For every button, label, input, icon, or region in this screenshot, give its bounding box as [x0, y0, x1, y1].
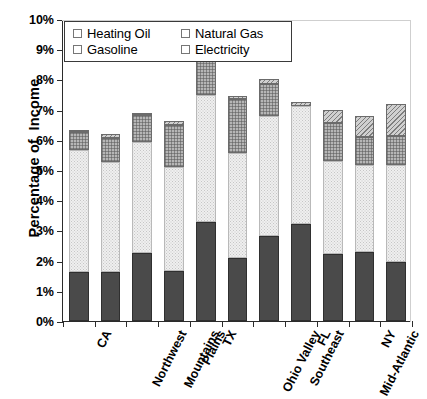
bar-column[interactable] — [355, 19, 375, 321]
bar-segment-electricity[interactable] — [291, 224, 311, 321]
bar-segment-electricity[interactable] — [259, 236, 279, 321]
legend-swatch-natural-gas-icon — [181, 29, 190, 38]
legend-item-heating-oil[interactable]: Heating Oil — [73, 26, 177, 41]
bar-segment-electricity[interactable] — [164, 271, 184, 321]
y-axis-tick-label: 3% — [36, 224, 54, 238]
bar-segment-heating-oil[interactable] — [323, 110, 343, 124]
legend-label: Gasoline — [87, 42, 138, 57]
bar-column[interactable] — [164, 19, 184, 321]
bar-segment-electricity[interactable] — [228, 258, 248, 321]
y-axis-tick-label: 1% — [36, 285, 54, 299]
y-axis-tick — [57, 80, 63, 81]
bar-segment-gasoline[interactable] — [355, 165, 375, 252]
y-axis-tick — [57, 20, 63, 21]
bar-segment-natural-gas[interactable] — [69, 132, 89, 151]
bar-column[interactable] — [101, 19, 121, 321]
y-axis-tick-label: 8% — [36, 73, 54, 87]
bar-column[interactable] — [196, 19, 216, 321]
y-axis-tick — [57, 171, 63, 172]
bar-segment-natural-gas[interactable] — [228, 99, 248, 152]
x-axis-tick — [317, 321, 318, 327]
bar-segment-electricity[interactable] — [69, 272, 89, 321]
y-axis-tick-label: 9% — [36, 43, 54, 57]
bar-segment-electricity[interactable] — [101, 272, 121, 321]
bar-column[interactable] — [323, 19, 343, 321]
y-axis-tick-label: 2% — [36, 255, 54, 269]
x-axis-tick — [63, 321, 64, 327]
bar-segment-gasoline[interactable] — [69, 150, 89, 272]
legend-swatch-gasoline-icon — [73, 45, 82, 54]
bar-column[interactable] — [69, 19, 89, 321]
legend-item-gasoline[interactable]: Gasoline — [73, 42, 177, 57]
x-axis-tick — [222, 321, 223, 327]
bar-column[interactable] — [386, 19, 406, 321]
x-axis-category-label: CA — [94, 328, 115, 350]
y-axis-tick-label: 5% — [36, 164, 54, 178]
bar-segment-natural-gas[interactable] — [132, 115, 152, 142]
bar-segment-heating-oil[interactable] — [228, 96, 248, 99]
bar-segment-gasoline[interactable] — [132, 142, 152, 253]
bar-segment-natural-gas[interactable] — [101, 138, 121, 162]
y-axis-tick-label: 7% — [36, 104, 54, 118]
bar-segment-natural-gas[interactable] — [323, 123, 343, 161]
bar-segment-electricity[interactable] — [196, 222, 216, 321]
y-axis-tick-label: 6% — [36, 134, 54, 148]
x-axis-category-label: NY — [379, 328, 399, 350]
bar-segment-gasoline[interactable] — [386, 165, 406, 262]
bar-segment-gasoline[interactable] — [228, 153, 248, 258]
bar-segment-gasoline[interactable] — [196, 95, 216, 223]
y-axis-tick — [57, 201, 63, 202]
stacked-bar-chart: Percentage of Income 0%1%2%3%4%5%6%7%8%9… — [0, 0, 427, 399]
y-axis-tick-label: 0% — [36, 315, 54, 329]
bar-column[interactable] — [132, 19, 152, 321]
bar-segment-gasoline[interactable] — [164, 167, 184, 271]
bar-column[interactable] — [291, 19, 311, 321]
plot-area: 0%1%2%3%4%5%6%7%8%9%10% — [62, 20, 411, 322]
bar-segment-heating-oil[interactable] — [69, 130, 89, 132]
legend-label: Electricity — [195, 42, 250, 57]
bar-column[interactable] — [228, 19, 248, 321]
bar-segment-electricity[interactable] — [132, 253, 152, 321]
bar-segment-heating-oil[interactable] — [291, 102, 311, 106]
y-axis-tick-label: 4% — [36, 194, 54, 208]
bar-segment-heating-oil[interactable] — [132, 113, 152, 115]
bar-segment-natural-gas[interactable] — [164, 125, 184, 167]
bar-segment-natural-gas[interactable] — [259, 84, 279, 116]
bar-segment-heating-oil[interactable] — [355, 116, 375, 137]
y-axis-tick — [57, 231, 63, 232]
bar-segment-gasoline[interactable] — [101, 162, 121, 272]
legend-item-electricity[interactable]: Electricity — [181, 42, 285, 57]
bar-segment-natural-gas[interactable] — [355, 137, 375, 166]
bar-segment-electricity[interactable] — [323, 254, 343, 321]
y-axis-tick — [57, 111, 63, 112]
y-axis-tick — [57, 50, 63, 51]
x-axis-tick — [412, 321, 413, 327]
x-axis-tick — [190, 321, 191, 327]
x-axis-tick — [95, 321, 96, 327]
bar-segment-gasoline[interactable] — [259, 116, 279, 236]
bar-segment-gasoline[interactable] — [323, 161, 343, 254]
bar-segment-natural-gas[interactable] — [386, 136, 406, 165]
bar-segment-electricity[interactable] — [386, 262, 406, 321]
x-axis-tick — [126, 321, 127, 327]
bar-segment-heating-oil[interactable] — [259, 79, 279, 84]
y-axis-tick — [57, 292, 63, 293]
legend-label: Natural Gas — [195, 26, 263, 41]
x-axis-tick — [253, 321, 254, 327]
y-axis-tick — [57, 141, 63, 142]
legend-label: Heating Oil — [87, 26, 150, 41]
y-axis-tick-label: 10% — [29, 13, 54, 27]
bar-segment-heating-oil[interactable] — [101, 134, 121, 139]
legend-swatch-heating-oil-icon — [73, 29, 82, 38]
x-axis-tick — [158, 321, 159, 327]
x-axis-tick — [349, 321, 350, 327]
x-axis-tick — [285, 321, 286, 327]
y-axis-tick — [57, 262, 63, 263]
bar-segment-heating-oil[interactable] — [164, 121, 184, 125]
legend-swatch-electricity-icon — [181, 45, 190, 54]
bar-column[interactable] — [259, 19, 279, 321]
bar-segment-heating-oil[interactable] — [386, 104, 406, 137]
bar-segment-electricity[interactable] — [355, 252, 375, 321]
legend-item-natural-gas[interactable]: Natural Gas — [181, 26, 285, 41]
bar-segment-gasoline[interactable] — [291, 106, 311, 224]
